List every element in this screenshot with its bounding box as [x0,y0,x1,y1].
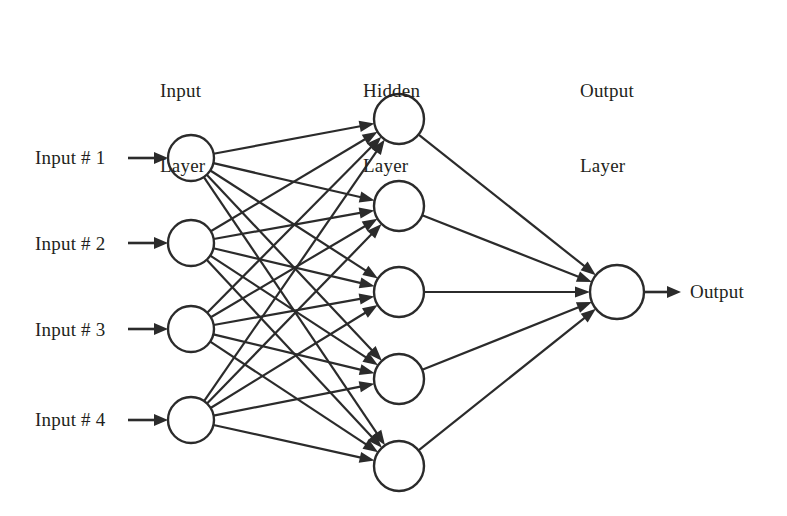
edge-hid5-out-line [419,316,587,450]
edge-in1-hid4-line [207,175,374,353]
edge-hid4-out-line [422,306,581,369]
edge-in1-hid2-line [213,163,363,198]
output-label: Output [690,281,744,303]
external-input-arrow-3-arrowhead [154,323,168,335]
external-input-arrow-2-arrowhead [154,237,168,249]
edge-in4-hid2-line [207,232,373,403]
hidden-layer-title: Hidden Layer [363,28,420,228]
edge-in4-hid4-line [214,386,363,415]
output-layer-node-1[interactable] [590,265,644,319]
output-layer-title: Output Layer [580,28,634,228]
edge-in3-hid1-line [207,145,373,313]
input-label-3: Input # 3 [35,319,105,341]
edge-in3-hid3-arrowhead [359,293,375,304]
edge-in4-hid1-line [204,149,378,401]
edge-in4-hid5-arrowhead [359,452,375,463]
hidden-layer-node-3[interactable] [374,267,424,317]
neural-network-diagram: Input Layer Hidden Layer Output Layer In… [0,0,787,516]
edge-in3-hid4-arrowhead [359,364,375,375]
edge-in2-hid1-line [211,138,368,231]
external-output-arrow-arrowhead [667,286,681,298]
input-label-1: Input # 1 [35,147,105,169]
input-layer-title-line2: Layer [160,153,205,178]
edge-in4-hid4-arrowhead [359,381,375,392]
edge-hid2-out-line [422,215,581,278]
output-layer-title-line2: Layer [580,153,634,178]
input-label-2: Input # 2 [35,233,105,255]
hidden-layer-title-line1: Hidden [363,78,420,103]
edge-in4-hid5-line [213,425,363,458]
input-layer-title: Input Layer [160,28,205,228]
hidden-layer-node-5[interactable] [374,441,424,491]
input-label-4: Input # 4 [35,409,105,431]
edge-in1-hid1-line [214,126,363,154]
edge-in2-hid3-arrowhead [359,277,375,288]
hidden-layer-node-4[interactable] [374,354,424,404]
input-layer-node-4[interactable] [168,397,214,443]
edge-hid3-out-arrowhead [575,286,590,297]
input-layer-title-line1: Input [160,78,205,103]
output-layer-title-line1: Output [580,78,634,103]
edge-in4-hid3-arrowhead [362,305,378,318]
external-input-arrow-4-arrowhead [154,414,168,426]
hidden-layer-title-line2: Layer [363,153,420,178]
edge-in1-hid3-arrowhead [362,266,378,279]
input-layer-node-3[interactable] [168,306,214,352]
